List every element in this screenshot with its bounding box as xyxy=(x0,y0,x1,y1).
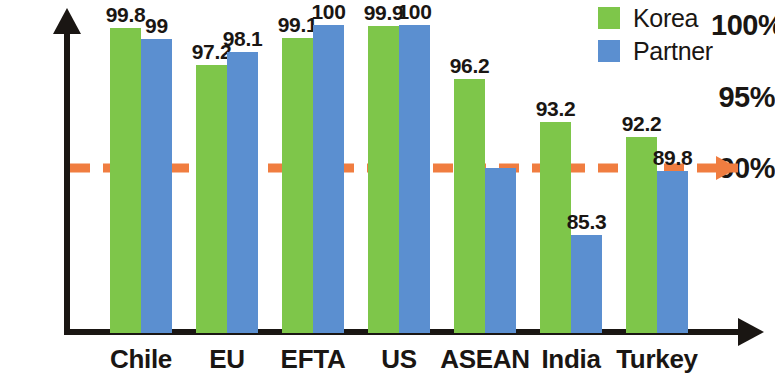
bar-korea-chile xyxy=(110,28,141,333)
x-axis-arrow-icon xyxy=(738,318,764,346)
bar-partner-us xyxy=(399,25,430,333)
bar-value-label: 96.2 xyxy=(442,54,498,78)
bar-value-label: 98.1 xyxy=(215,27,271,51)
legend-item-partner: Partner xyxy=(598,39,713,63)
y-axis-tick-label: 100% xyxy=(711,9,775,42)
bar-korea-eu xyxy=(196,65,227,333)
legend-item-korea: Korea xyxy=(598,6,713,30)
bar-partner-turkey xyxy=(657,171,688,333)
bar-partner-efta xyxy=(313,25,344,333)
bar-partner-asean xyxy=(485,168,516,333)
x-axis-category-label-asean: ASEAN xyxy=(440,344,530,375)
legend-label: Korea xyxy=(633,4,698,33)
bar-partner-eu xyxy=(227,52,258,333)
bar-partner-chile xyxy=(141,39,172,333)
x-axis-category-label-eu: EU xyxy=(182,344,272,375)
bar-chart: 100%95%90% 99.899Chile97.298.1EU99.1100E… xyxy=(0,0,775,382)
legend-label: Partner xyxy=(633,37,713,66)
bar-value-label: 100 xyxy=(387,0,443,24)
x-axis-category-label-us: US xyxy=(354,344,444,375)
bar-value-label: 99 xyxy=(129,14,185,38)
x-axis-category-label-efta: EFTA xyxy=(268,344,358,375)
y-axis-tick-label: 95% xyxy=(711,80,775,113)
y-axis-arrow-icon xyxy=(53,8,81,34)
bar-value-label: 85.3 xyxy=(559,210,615,234)
legend: KoreaPartner xyxy=(598,6,713,72)
bar-korea-efta xyxy=(282,38,313,333)
legend-swatch-icon xyxy=(598,40,620,62)
bar-value-label: 100 xyxy=(301,0,357,24)
x-axis-category-label-turkey: Turkey xyxy=(612,344,702,375)
y-axis-line xyxy=(64,30,70,335)
bar-korea-us xyxy=(368,26,399,333)
bar-partner-india xyxy=(571,235,602,333)
bar-value-label: 92.2 xyxy=(614,112,670,136)
reference-line-arrow-icon xyxy=(716,156,738,180)
legend-swatch-icon xyxy=(598,7,620,29)
x-axis-category-label-india: India xyxy=(526,344,616,375)
bar-korea-asean xyxy=(454,79,485,333)
bar-value-label: 89.8 xyxy=(645,146,701,170)
bar-value-label: 93.2 xyxy=(528,97,584,121)
x-axis-category-label-chile: Chile xyxy=(96,344,186,375)
